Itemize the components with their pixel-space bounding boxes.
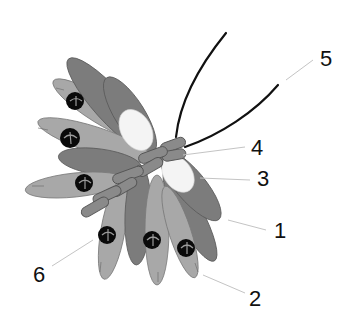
leader-line-6 — [52, 240, 93, 266]
leader-line-4 — [183, 147, 245, 155]
leader-line-5 — [286, 60, 313, 80]
diagram-canvas: 1 2 3 4 5 6 — [0, 0, 360, 336]
label-2: 2 — [249, 286, 261, 311]
filament-upper — [176, 33, 226, 137]
filaments — [176, 33, 278, 147]
filament-lower — [185, 85, 278, 147]
leader-line-3 — [200, 178, 250, 180]
rod-units — [24, 48, 230, 285]
leader-line-1 — [228, 220, 266, 230]
leader-line-2 — [203, 275, 245, 293]
label-4: 4 — [251, 135, 263, 160]
label-6: 6 — [33, 262, 45, 287]
label-1: 1 — [274, 218, 286, 243]
label-5: 5 — [320, 46, 332, 71]
label-3: 3 — [257, 166, 269, 191]
